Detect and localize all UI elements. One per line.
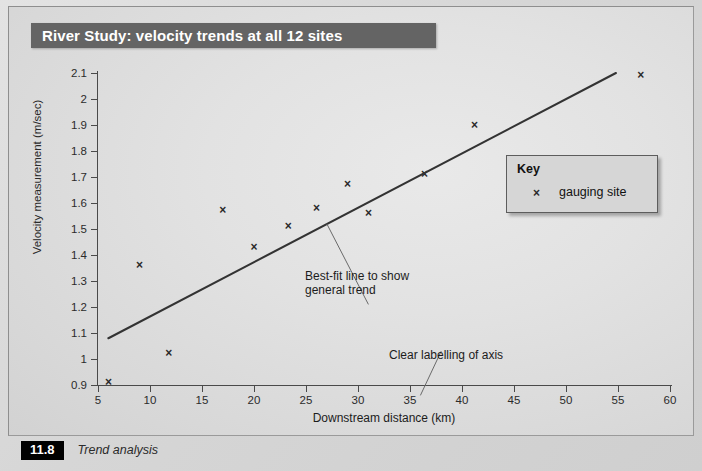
data-point-marker: × [217, 205, 228, 216]
y-tick [91, 229, 97, 230]
x-tick [670, 386, 671, 392]
annotation-best-fit: Best-fit line to show general trend [305, 269, 475, 297]
x-tick [150, 386, 151, 392]
x-tick [254, 386, 255, 392]
y-tick [91, 73, 97, 74]
legend-marker-icon: × [533, 186, 540, 200]
x-tick-label: 40 [442, 394, 482, 406]
x-tick [358, 386, 359, 392]
x-tick [202, 386, 203, 392]
y-tick [91, 359, 97, 360]
chart-panel: River Study: velocity trends at all 12 s… [8, 6, 694, 436]
data-point-marker: × [249, 242, 260, 253]
annotation-axis-labelling: Clear labelling of axis [389, 348, 579, 362]
figure-caption: 11.8 Trend analysis [8, 436, 694, 464]
x-tick-label: 60 [650, 394, 690, 406]
x-tick [618, 386, 619, 392]
x-axis-line [97, 385, 672, 386]
data-point-marker: × [283, 221, 294, 232]
data-point-marker: × [342, 179, 353, 190]
y-tick-label: 0.9 [17, 379, 87, 391]
x-tick [98, 386, 99, 392]
legend-key-box: Key × gauging site [506, 155, 658, 213]
y-tick-label: 1.3 [17, 275, 87, 287]
x-tick [566, 386, 567, 392]
y-tick-label: 1.7 [17, 171, 87, 183]
y-tick-label: 2 [17, 93, 87, 105]
x-tick [462, 386, 463, 392]
x-tick [514, 386, 515, 392]
x-tick-label: 20 [234, 394, 274, 406]
x-tick [410, 386, 411, 392]
y-tick [91, 385, 97, 386]
x-tick-label: 25 [286, 394, 326, 406]
legend-entry-label: gauging site [559, 185, 626, 199]
plot-area: 0.911.11.21.31.41.51.61.71.81.922.1 5101… [9, 7, 695, 437]
y-tick-label: 1.8 [17, 145, 87, 157]
legend-title: Key [517, 162, 540, 176]
y-tick-label: 1.4 [17, 249, 87, 261]
y-tick [91, 281, 97, 282]
data-point-marker: × [103, 377, 114, 388]
y-tick-label: 2.1 [17, 67, 87, 79]
y-tick-label: 1.1 [17, 327, 87, 339]
data-point-marker: × [635, 70, 646, 81]
y-tick-label: 1 [17, 353, 87, 365]
figure-root: River Study: velocity trends at all 12 s… [0, 0, 702, 471]
data-point-marker: × [134, 260, 145, 271]
x-tick-label: 50 [546, 394, 586, 406]
x-tick-label: 35 [390, 394, 430, 406]
y-tick [91, 255, 97, 256]
data-point-marker: × [311, 203, 322, 214]
y-tick [91, 125, 97, 126]
data-point-marker: × [469, 120, 480, 131]
y-tick [91, 203, 97, 204]
caption-text: Trend analysis [78, 443, 158, 457]
x-tick-label: 55 [598, 394, 638, 406]
caption-number-badge: 11.8 [21, 441, 64, 460]
y-tick [91, 151, 97, 152]
x-tick [306, 386, 307, 392]
data-point-marker: × [163, 348, 174, 359]
y-tick-label: 1.2 [17, 301, 87, 313]
x-tick-label: 15 [182, 394, 222, 406]
y-tick [91, 307, 97, 308]
x-tick-label: 10 [130, 394, 170, 406]
y-tick-label: 1.9 [17, 119, 87, 131]
y-tick [91, 177, 97, 178]
y-tick [91, 99, 97, 100]
y-axis-line [97, 71, 98, 386]
y-axis-title: Velocity measurement (m/sec) [31, 87, 43, 267]
x-tick-label: 5 [78, 394, 118, 406]
data-point-marker: × [419, 169, 430, 180]
x-tick-label: 30 [338, 394, 378, 406]
x-tick-label: 45 [494, 394, 534, 406]
x-axis-title: Downstream distance (km) [209, 411, 559, 425]
y-tick-label: 1.6 [17, 197, 87, 209]
y-tick [91, 333, 97, 334]
trendline-overlay [9, 7, 695, 437]
y-tick-label: 1.5 [17, 223, 87, 235]
data-point-marker: × [363, 208, 374, 219]
